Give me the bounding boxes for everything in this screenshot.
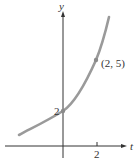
point-label: (2, 5) (101, 57, 125, 70)
t-tick-label: 2 (94, 148, 100, 160)
y-axis-label: y (58, 0, 64, 12)
exponential-graph: y t 2 (2, 5) 2 (0, 0, 136, 161)
t-axis-label: t (130, 140, 134, 152)
point-y-intercept (61, 109, 65, 113)
t-axis-arrow-icon (121, 144, 127, 148)
exponential-curve (19, 17, 109, 135)
y-intercept-label: 2 (54, 105, 60, 117)
point-2-5 (94, 58, 98, 62)
